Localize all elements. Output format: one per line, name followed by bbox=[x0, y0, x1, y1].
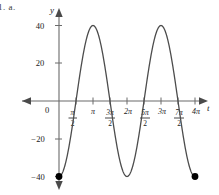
y-axis-down-arrow-icon bbox=[55, 181, 62, 190]
left-endpoint-dot bbox=[56, 173, 63, 180]
cosine-graph-plot: t y 40 20 0 −20 −40 bbox=[0, 0, 219, 195]
fraction-denominator: 2 bbox=[143, 119, 147, 128]
x-tick-label-pi: π bbox=[91, 107, 96, 116]
x-tick-label-2pi: 2π bbox=[124, 107, 133, 116]
y-axis-name: y bbox=[49, 5, 54, 15]
x-tick-label-3pi: 3π bbox=[157, 107, 167, 116]
x-axis-name: t bbox=[207, 103, 210, 113]
right-endpoint-dot bbox=[192, 173, 199, 180]
y-axis-group: y bbox=[49, 5, 63, 190]
origin-label: 0 bbox=[45, 105, 49, 115]
y-tick-label-neg40: −40 bbox=[31, 172, 44, 182]
figure-container: 1. a. t y 40 20 0 −20 −40 bbox=[0, 0, 219, 195]
fraction-denominator: 2 bbox=[108, 119, 112, 128]
y-tick-label-20: 20 bbox=[36, 58, 45, 68]
y-tick-label-40: 40 bbox=[36, 21, 45, 31]
y-tick-label-neg20: −20 bbox=[31, 134, 44, 144]
x-axis-left-arrow-icon bbox=[22, 97, 31, 104]
y-axis-up-arrow-icon bbox=[55, 8, 62, 17]
x-tick-label-4pi: 4π bbox=[192, 107, 201, 116]
